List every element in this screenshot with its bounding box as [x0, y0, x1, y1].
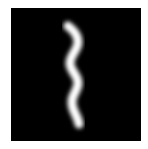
digit-stroke-path: [68, 26, 79, 124]
handwritten-digit-stroke: [0, 0, 148, 149]
